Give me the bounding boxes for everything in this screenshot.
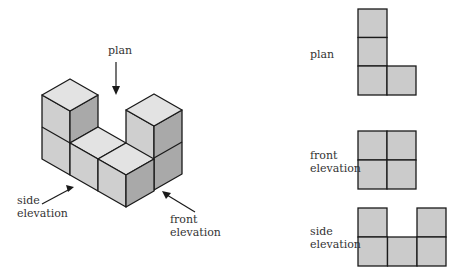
front-label-line2: elevation <box>170 226 221 239</box>
plan-view <box>358 9 416 95</box>
side-view-label-line2: elevation <box>310 238 361 251</box>
side-label-line2: elevation <box>17 207 68 220</box>
front-elevation-arrow-icon <box>162 191 195 212</box>
front-view-label-line2: elevation <box>310 162 361 175</box>
side-elevation-arrow-label: side elevation <box>17 194 68 220</box>
side-label-line1: side <box>17 194 68 207</box>
side-elevation-view <box>358 208 446 266</box>
plan-arrow-label: plan <box>108 44 132 57</box>
side-view-label-line1: side <box>310 225 361 238</box>
front-elevation-view-label: front elevation <box>310 149 361 175</box>
side-elevation-view-label: side elevation <box>310 225 361 251</box>
plan-view-label: plan <box>310 48 334 61</box>
front-elevation-view <box>358 131 416 189</box>
isometric-cube-structure <box>0 0 462 278</box>
front-elevation-arrow-label: front elevation <box>170 213 221 239</box>
front-view-label-line1: front <box>310 149 361 162</box>
plan-arrow-icon <box>112 62 120 95</box>
front-label-line1: front <box>170 213 221 226</box>
